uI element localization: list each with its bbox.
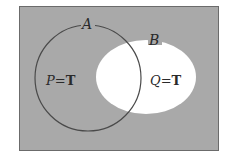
region-a-label: P=T xyxy=(45,73,76,88)
set-b-label: B xyxy=(148,32,159,48)
set-a-label: A xyxy=(80,16,92,32)
region-b-label: Q=T xyxy=(150,73,182,88)
venn-diagram: A B P=T Q=T xyxy=(0,0,230,162)
